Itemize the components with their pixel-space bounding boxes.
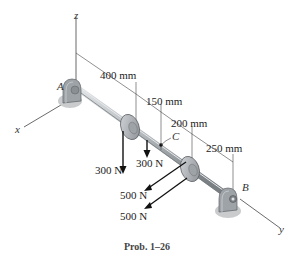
- x-axis-label: x: [15, 124, 20, 135]
- figure-caption: Prob. 1–26: [124, 242, 170, 252]
- support-b-label: B: [242, 182, 249, 193]
- support-a-label: A: [57, 81, 64, 92]
- force-300n-b-label: 300 N: [136, 158, 163, 169]
- x-axis: [24, 102, 66, 127]
- pulley-2: [177, 154, 203, 185]
- z-axis-label: z: [74, 10, 78, 21]
- diagram-svg: [0, 0, 295, 261]
- shaft-diagram: z x y A B C 400 mm 150 mm 200 mm 250 mm …: [0, 0, 295, 261]
- force-300n-a-label: 300 N: [95, 165, 122, 176]
- force-500n-b-arrowhead: [144, 202, 152, 209]
- support-a: [63, 79, 81, 103]
- force-500n-b-label: 500 N: [120, 211, 147, 222]
- dimension-400mm: 400 mm: [100, 70, 136, 81]
- support-b: [219, 188, 237, 212]
- dimension-200mm: 200 mm: [171, 118, 207, 129]
- y-axis-label: y: [279, 224, 284, 235]
- dimension-150mm: 150 mm: [146, 96, 182, 107]
- force-500n-b-line: [147, 178, 187, 207]
- force-500n-a-label: 500 N: [120, 190, 147, 201]
- y-axis: [240, 199, 280, 228]
- point-c-label: C: [172, 131, 179, 142]
- dimension-250mm: 250 mm: [206, 143, 242, 154]
